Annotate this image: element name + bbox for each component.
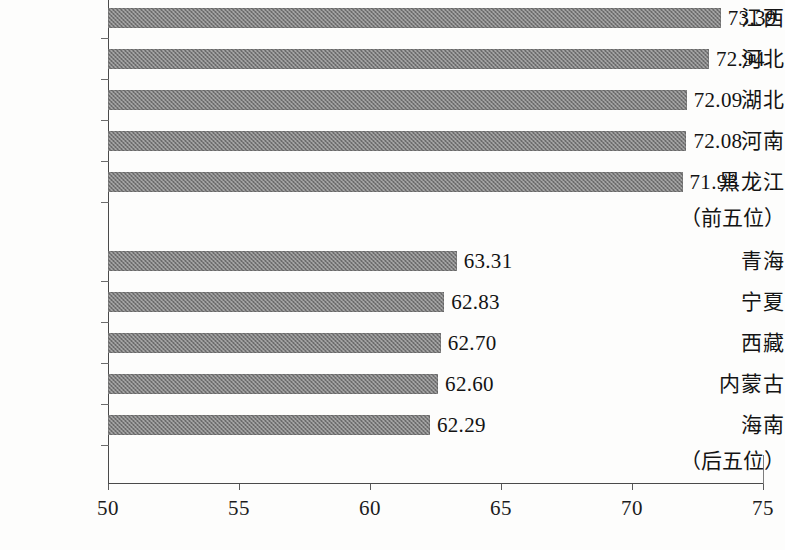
category-label: 海南 (681, 415, 785, 435)
x-axis-tick (763, 484, 764, 490)
category-label: 西藏 (681, 333, 785, 353)
x-axis-tick-label: 50 (97, 496, 119, 521)
y-axis-tick (101, 120, 109, 121)
x-axis-tick (632, 484, 633, 490)
x-axis-tick-label: 75 (752, 496, 774, 521)
bar (108, 90, 687, 110)
bar (108, 292, 444, 312)
y-axis-tick (101, 445, 109, 446)
category-label: 宁夏 (681, 292, 785, 312)
bar-value-label: 62.83 (451, 292, 500, 312)
bar-value-label: 62.70 (448, 333, 497, 353)
category-label: 湖北 (681, 90, 785, 110)
y-axis-tick (101, 161, 109, 162)
y-axis-tick (101, 404, 109, 405)
x-axis-tick-label: 55 (228, 496, 250, 521)
x-axis-tick (370, 484, 371, 490)
x-axis-tick (501, 484, 502, 490)
x-axis-line (108, 483, 764, 484)
bar (108, 172, 683, 192)
bar-value-label: 63.31 (464, 251, 513, 271)
x-axis-tick-label: 65 (490, 496, 512, 521)
y-axis-line (108, 0, 109, 484)
x-axis-tick-label: 70 (621, 496, 643, 521)
category-label: 河北 (681, 49, 785, 69)
y-axis-tick (101, 38, 109, 39)
bottom-group-note: （后五位） (679, 451, 785, 471)
bar (108, 251, 457, 271)
x-axis-tick (108, 484, 109, 490)
y-axis-tick (101, 79, 109, 80)
bar (108, 415, 430, 435)
bar (108, 8, 721, 28)
category-label: 内蒙古 (681, 374, 785, 394)
bar (108, 333, 441, 353)
bar-chart: 505560657075 73.3972.9472.0972.0871.9363… (0, 0, 785, 550)
bar (108, 374, 438, 394)
category-label: 河南 (681, 131, 785, 151)
y-axis-tick (101, 202, 109, 203)
y-axis-tick (101, 322, 109, 323)
top-group-note: （前五位） (679, 208, 785, 228)
category-label: 黑龙江 (681, 172, 785, 192)
x-axis-tick (239, 484, 240, 490)
bar (108, 131, 686, 151)
bar (108, 49, 709, 69)
bar-value-label: 62.60 (445, 374, 494, 394)
y-axis-tick (101, 363, 109, 364)
y-axis-tick (101, 281, 109, 282)
category-label: 江西 (681, 8, 785, 28)
category-label: 青海 (681, 251, 785, 271)
x-axis-tick-label: 60 (359, 496, 381, 521)
bar-value-label: 62.29 (437, 415, 486, 435)
